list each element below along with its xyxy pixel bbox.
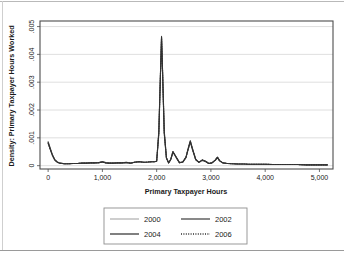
series-line-2000 — [48, 37, 327, 165]
y-tick-label: .003 — [28, 75, 35, 89]
legend-label-2000: 2000 — [144, 215, 161, 224]
plot-frame — [40, 21, 333, 169]
legend-label-2002: 2002 — [215, 215, 232, 224]
x-tick-labels: 01,0002,0003,0004,0005,000 — [46, 174, 328, 181]
x-tick-label: 1,000 — [94, 174, 112, 181]
x-tick-label: 0 — [46, 174, 50, 181]
y-tick-label: 0 — [28, 164, 35, 168]
series-line-2006 — [48, 37, 327, 165]
grid-lines — [40, 27, 333, 166]
legend-label-2006: 2006 — [215, 230, 232, 239]
x-tick-label: 3,000 — [202, 174, 220, 181]
y-tick-label: .001 — [28, 131, 35, 145]
y-tick-label: .005 — [28, 20, 35, 34]
density-chart: Density: Primary Taxpayer Hours Worked 0… — [0, 0, 344, 250]
y-axis-title: Density: Primary Taxpayer Hours Worked — [7, 25, 16, 166]
x-axis-title: Primary Taxpayer Hours — [145, 187, 228, 196]
page-rule-bottom — [0, 250, 344, 251]
series-line-2004 — [48, 38, 327, 165]
y-tick-labels: 0.001.002.003.004.005 — [28, 20, 35, 168]
chart-legend: 2000200220042006 — [104, 208, 247, 244]
y-tick-label: .004 — [28, 47, 35, 61]
series-layer — [48, 36, 327, 165]
legend-label-2004: 2004 — [144, 230, 161, 239]
x-tick-label: 4,000 — [256, 174, 274, 181]
x-tick-label: 2,000 — [148, 174, 166, 181]
series-line-2002 — [48, 36, 327, 165]
figure-container: Density: Primary Taxpayer Hours Worked 0… — [0, 0, 344, 250]
x-tick-label: 5,000 — [311, 174, 329, 181]
y-tick-label: .002 — [28, 103, 35, 117]
page: Density: Primary Taxpayer Hours Worked 0… — [0, 0, 344, 257]
